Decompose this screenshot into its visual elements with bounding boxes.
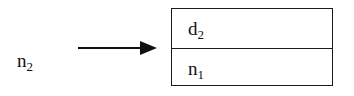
cell-bottom-name: n — [188, 58, 198, 79]
arrow-right-icon — [78, 39, 158, 57]
record-box: d2 n1 — [171, 8, 333, 86]
pointer-node-label: n2 — [17, 51, 33, 73]
record-cell-top: d2 — [172, 9, 332, 49]
cell-top-name: d — [188, 18, 198, 39]
cell-bottom-subscript: 1 — [198, 67, 205, 82]
record-cell-top-label: d2 — [188, 19, 204, 41]
pointer-node-subscript: 2 — [27, 59, 34, 74]
record-cell-bottom-label: n1 — [188, 59, 204, 81]
pointer-node-name: n — [17, 50, 27, 71]
cell-top-subscript: 2 — [198, 27, 205, 42]
record-cell-bottom: n1 — [172, 48, 332, 87]
